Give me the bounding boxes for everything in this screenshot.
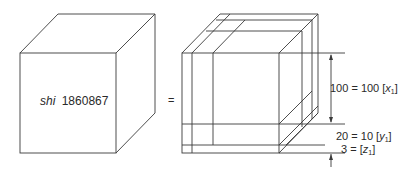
annotation-y1: 20 = 10 [y1] (336, 130, 392, 143)
equals-sign: = (168, 94, 174, 106)
annotation-x1: 100 = 100 [x1] (330, 82, 398, 95)
left-cube (20, 14, 155, 153)
cube-decomposition-diagram: shi 1860867 = (0, 0, 415, 175)
right-cube (182, 14, 345, 153)
dimension-arrow-z1 (329, 154, 333, 167)
left-cube-label: shi 1860867 (40, 94, 109, 108)
annotation-z1: 3 = [z1] (341, 143, 375, 156)
